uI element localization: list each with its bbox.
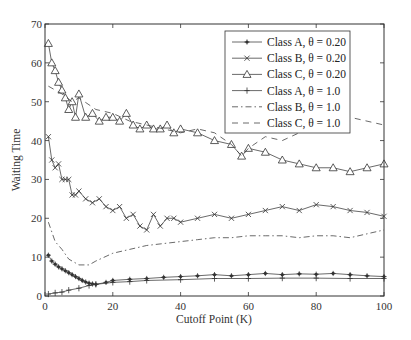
plus-marker-icon xyxy=(66,287,71,293)
legend-label: Class C, θ = 0.20 xyxy=(267,68,346,81)
legend: Class A, θ = 0.20Class B, θ = 0.20Class … xyxy=(225,31,350,133)
x-marker-icon xyxy=(110,208,115,213)
x-marker-icon xyxy=(263,208,268,213)
triangle-marker-icon xyxy=(88,109,96,116)
series-class-b-0-20 xyxy=(46,134,387,232)
x-marker-icon xyxy=(144,227,149,232)
x-marker-icon xyxy=(90,200,95,205)
triangle-marker-icon xyxy=(102,113,110,120)
series-line xyxy=(48,222,384,265)
plus-marker-icon xyxy=(178,277,183,283)
legend-label: Class B, θ = 0.20 xyxy=(267,52,346,65)
x-marker-icon xyxy=(158,223,163,228)
plus-marker-icon xyxy=(280,275,285,281)
y-tick-label: 10 xyxy=(31,251,43,263)
asterisk-marker-icon xyxy=(331,271,336,276)
asterisk-marker-icon xyxy=(263,271,268,276)
triangle-marker-icon xyxy=(48,59,56,66)
series-line xyxy=(48,278,384,294)
y-tick-label: 0 xyxy=(37,290,43,302)
x-tick-label: 0 xyxy=(42,300,48,312)
asterisk-marker-icon xyxy=(195,273,200,278)
x-marker-icon xyxy=(124,216,129,221)
triangle-marker-icon xyxy=(75,90,83,97)
x-marker-icon xyxy=(131,212,136,217)
plus-marker-icon xyxy=(76,285,81,291)
x-tick-label: 60 xyxy=(243,300,255,312)
legend-label: Class A, θ = 1.0 xyxy=(267,85,341,98)
x-marker-icon xyxy=(117,204,122,209)
plus-marker-icon xyxy=(314,275,319,281)
x-marker-icon xyxy=(178,220,183,225)
y-tick-label: 50 xyxy=(31,96,43,108)
y-tick-label: 70 xyxy=(31,18,43,30)
asterisk-marker-icon xyxy=(297,271,302,276)
series-class-b-1-0 xyxy=(48,222,384,265)
y-tick-label: 40 xyxy=(31,135,43,147)
asterisk-marker-icon xyxy=(161,275,166,280)
x-tick-label: 20 xyxy=(107,300,119,312)
plus-marker-icon xyxy=(53,290,58,296)
y-tick-label: 60 xyxy=(31,57,43,69)
legend-label: Class A, θ = 0.20 xyxy=(267,36,346,49)
x-marker-icon xyxy=(297,208,302,213)
plus-marker-icon xyxy=(348,275,353,281)
x-marker-icon xyxy=(76,188,81,193)
x-marker-icon xyxy=(151,212,156,217)
x-marker-icon xyxy=(229,216,234,221)
x-tick-label: 40 xyxy=(175,300,187,312)
triangle-marker-icon xyxy=(72,113,80,120)
x-marker-icon xyxy=(212,212,217,217)
triangle-marker-icon xyxy=(211,137,219,144)
triangle-marker-icon xyxy=(44,39,52,46)
triangle-marker-icon xyxy=(329,164,337,171)
triangle-marker-icon xyxy=(278,156,286,163)
triangle-marker-icon xyxy=(177,125,185,132)
y-axis-label: Waiting Time xyxy=(10,129,23,192)
x-marker-icon xyxy=(280,204,285,209)
asterisk-marker-icon xyxy=(103,280,108,285)
waiting-time-chart: 020406080100010203040506070 Cutoff Point… xyxy=(0,0,411,340)
asterisk-marker-icon xyxy=(364,273,369,278)
series-line xyxy=(48,255,384,284)
x-marker-icon xyxy=(246,212,251,217)
plus-marker-icon xyxy=(59,289,64,295)
y-tick-label: 20 xyxy=(31,212,43,224)
series-class-a-0-20 xyxy=(46,253,387,287)
plus-marker-icon xyxy=(93,281,98,287)
triangle-marker-icon xyxy=(65,105,73,112)
y-tick-label: 30 xyxy=(31,173,43,185)
triangle-marker-icon xyxy=(51,67,59,74)
legend-label: Class C, θ = 1.0 xyxy=(267,117,341,130)
triangle-marker-icon xyxy=(163,121,171,128)
x-marker-icon xyxy=(137,223,142,228)
plus-marker-icon xyxy=(246,275,251,281)
triangle-marker-icon xyxy=(55,78,63,85)
x-marker-icon xyxy=(83,196,88,201)
x-axis-label: Cutoff Point (K) xyxy=(176,313,252,326)
x-tick-label: 100 xyxy=(376,300,393,312)
x-marker-icon xyxy=(97,196,102,201)
triangle-marker-icon xyxy=(244,144,252,151)
series-class-a-1-0 xyxy=(46,275,387,297)
x-marker-icon xyxy=(103,204,108,209)
x-marker-icon xyxy=(195,216,200,221)
plus-marker-icon xyxy=(212,275,217,281)
triangle-marker-icon xyxy=(129,121,137,128)
x-tick-label: 80 xyxy=(311,300,323,312)
asterisk-marker-icon xyxy=(229,273,234,278)
legend-label: Class B, θ = 1.0 xyxy=(267,101,341,114)
triangle-marker-icon xyxy=(143,121,151,128)
triangle-marker-icon xyxy=(122,109,130,116)
